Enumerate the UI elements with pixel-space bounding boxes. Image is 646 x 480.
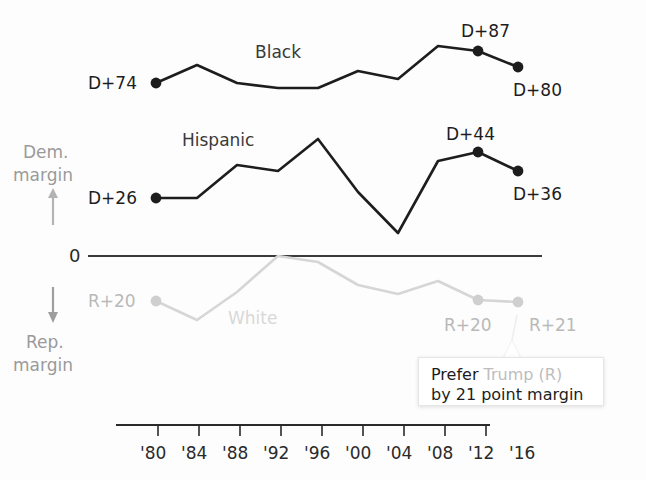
- chart-canvas: [0, 0, 646, 480]
- series-label-hispanic: Hispanic: [182, 132, 254, 149]
- race-voting-margin-chart: Black Hispanic White D+74 D+87 D+80 D+26…: [0, 0, 646, 480]
- value-label-hispanic-1980: D+26: [88, 190, 137, 207]
- value-label-black-2012: D+87: [461, 23, 510, 40]
- x-tick-label-1988: '88: [222, 445, 248, 462]
- annotation-tooltip: Prefer Trump (R) by 21 point margin: [418, 357, 604, 406]
- rep-margin-label-line1: Rep.: [26, 334, 64, 351]
- series-label-black: Black: [255, 44, 301, 61]
- series-line-white: [156, 256, 518, 320]
- data-point-white-2012: [473, 295, 484, 306]
- x-tick-label-2000: '00: [345, 445, 371, 462]
- rep-margin-label-line2: margin: [13, 357, 73, 374]
- series-label-white: White: [228, 310, 277, 327]
- value-label-hispanic-2012: D+44: [446, 126, 495, 143]
- x-tick-label-1996: '96: [304, 445, 330, 462]
- value-label-black-2016: D+80: [513, 82, 562, 99]
- x-tick-label-1984: '84: [181, 445, 207, 462]
- dem-margin-label-line2: margin: [13, 167, 73, 184]
- value-label-white-2012: R+20: [444, 317, 492, 334]
- rep-down-arrow-icon: [48, 287, 58, 323]
- value-label-white-1980: R+20: [88, 293, 136, 310]
- data-point-hispanic-1980: [151, 193, 162, 204]
- tooltip-prefer-text: Prefer: [431, 365, 484, 384]
- data-point-white-1980: [151, 296, 162, 307]
- x-tick-label-1992: '92: [263, 445, 289, 462]
- dem-up-arrow-icon: [48, 188, 58, 225]
- x-tick-label-2016: '16: [509, 445, 535, 462]
- x-tick-label-1980: '80: [140, 445, 166, 462]
- x-axis-ticks: [158, 425, 486, 436]
- data-point-black-1980: [151, 78, 162, 89]
- data-point-white-2016: [513, 297, 524, 308]
- data-point-black-2012: [473, 46, 484, 57]
- series-line-hispanic: [156, 139, 518, 233]
- dem-margin-label-line1: Dem.: [23, 144, 69, 161]
- tooltip-candidate-text: Trump (R): [484, 365, 563, 384]
- series-line-black: [156, 46, 518, 88]
- x-tick-label-2012: '12: [468, 445, 494, 462]
- zero-line-label: 0: [69, 247, 80, 265]
- tooltip-line-1: Prefer Trump (R): [431, 365, 593, 385]
- data-point-hispanic-2012: [473, 147, 484, 158]
- x-tick-label-2004: '04: [386, 445, 412, 462]
- value-label-hispanic-2016: D+36: [513, 186, 562, 203]
- tooltip-line-2: by 21 point margin: [431, 385, 593, 405]
- tooltip-pointer-leader: [512, 315, 517, 340]
- data-point-black-2016: [513, 62, 524, 73]
- value-label-black-1980: D+74: [88, 75, 137, 92]
- data-point-hispanic-2016: [513, 166, 524, 177]
- value-label-white-2016: R+21: [529, 317, 577, 334]
- tooltip-pointer: [503, 340, 521, 358]
- x-tick-label-2008: '08: [427, 445, 453, 462]
